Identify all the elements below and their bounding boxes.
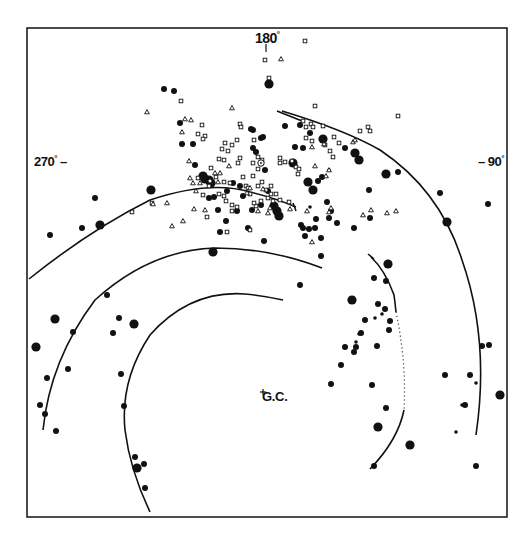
square-marker — [310, 139, 314, 143]
triangle-marker — [261, 187, 266, 191]
data-points — [31, 39, 504, 491]
square-marker — [396, 114, 400, 118]
large-dot-marker — [95, 220, 104, 229]
triangle-marker — [310, 145, 315, 149]
diagram-stage: 180° 270° – – 90° G.C. — [0, 0, 530, 537]
triangle-marker — [203, 208, 208, 212]
dot-marker — [387, 318, 393, 324]
triangle-marker — [327, 168, 332, 172]
square-marker — [259, 199, 263, 203]
dot-marker — [118, 371, 124, 377]
square-marker — [303, 39, 307, 43]
square-marker — [200, 123, 204, 127]
dot-marker — [261, 238, 267, 244]
dot-marker — [467, 372, 473, 378]
square-marker — [321, 124, 325, 128]
dot-marker — [282, 123, 288, 129]
plot-frame — [27, 28, 507, 517]
dot-marker — [92, 195, 98, 201]
label-180-text: 180 — [255, 30, 277, 46]
triangle-marker — [180, 130, 185, 134]
triangle-marker — [183, 117, 188, 121]
galactic-map — [0, 0, 530, 537]
dot-marker — [116, 315, 122, 321]
dot-marker — [342, 145, 348, 151]
square-marker — [269, 184, 273, 188]
dot-marker — [79, 225, 85, 231]
small-dot-marker — [380, 312, 384, 316]
dot-marker — [110, 330, 116, 336]
inner-arm-curve — [124, 294, 283, 512]
square-marker — [267, 76, 271, 80]
square-marker — [223, 141, 227, 145]
square-marker — [196, 132, 200, 136]
dot-marker — [171, 88, 177, 94]
large-dot-marker — [129, 319, 138, 328]
square-marker — [217, 157, 221, 161]
outer-arm-right-curve — [282, 111, 481, 435]
square-marker — [222, 194, 226, 198]
dot-marker — [260, 134, 266, 140]
square-marker — [256, 167, 260, 171]
degree-mark: ° — [501, 154, 504, 163]
dot-marker — [37, 402, 43, 408]
dot-marker — [47, 232, 53, 238]
dot-marker — [161, 86, 167, 92]
triangle-marker — [165, 201, 170, 205]
dot-marker — [223, 218, 229, 224]
triangle-marker — [310, 240, 315, 244]
dot-marker — [371, 463, 377, 469]
square-marker — [251, 174, 255, 178]
dot-marker — [312, 225, 318, 231]
dot-marker — [485, 201, 491, 207]
triangle-marker — [230, 106, 235, 110]
dot-marker — [313, 216, 319, 222]
triangle-marker — [170, 224, 175, 228]
dot-marker — [121, 403, 127, 409]
dot-marker — [383, 278, 389, 284]
dot-marker — [224, 188, 230, 194]
dot-marker — [395, 169, 401, 175]
triangle-marker — [324, 174, 329, 178]
small-dot-marker — [474, 381, 478, 385]
triangle-marker — [181, 219, 186, 223]
right-arm-tick-curve — [368, 254, 374, 259]
dot-marker — [206, 195, 212, 201]
dot-marker — [318, 253, 324, 259]
dot-marker — [366, 187, 372, 193]
sun-icon — [258, 160, 264, 166]
small-dot-marker — [454, 430, 458, 434]
square-marker — [230, 203, 234, 207]
dot-marker — [351, 225, 357, 231]
triangle-marker — [189, 118, 194, 122]
square-marker — [248, 228, 252, 232]
square-marker — [222, 180, 226, 184]
triangle-marker — [256, 209, 261, 213]
triangle-marker — [227, 164, 232, 168]
label-90-text: 90 — [488, 154, 501, 169]
dot-marker — [44, 375, 50, 381]
galactic-center-label: G.C. — [262, 389, 288, 404]
large-dot-marker — [50, 314, 59, 323]
dot-marker — [437, 190, 443, 196]
triangle-marker — [361, 213, 366, 217]
dot-marker — [142, 485, 148, 491]
dot-marker — [248, 126, 254, 132]
square-marker — [331, 155, 335, 159]
square-marker — [239, 125, 243, 129]
square-marker — [328, 149, 332, 153]
square-marker — [266, 196, 270, 200]
square-marker — [235, 138, 239, 142]
dot-marker — [367, 215, 373, 221]
square-marker — [366, 125, 370, 129]
label-270-text: 270 — [34, 154, 54, 169]
square-marker — [271, 199, 275, 203]
dot-marker — [382, 306, 388, 312]
square-marker — [304, 125, 308, 129]
triangle-marker — [216, 180, 221, 184]
square-marker — [297, 167, 301, 171]
small-dot-marker — [354, 340, 358, 344]
small-dot-marker — [460, 403, 464, 407]
longitude-90-label: – 90° — [478, 154, 504, 169]
dot-marker — [300, 145, 306, 151]
